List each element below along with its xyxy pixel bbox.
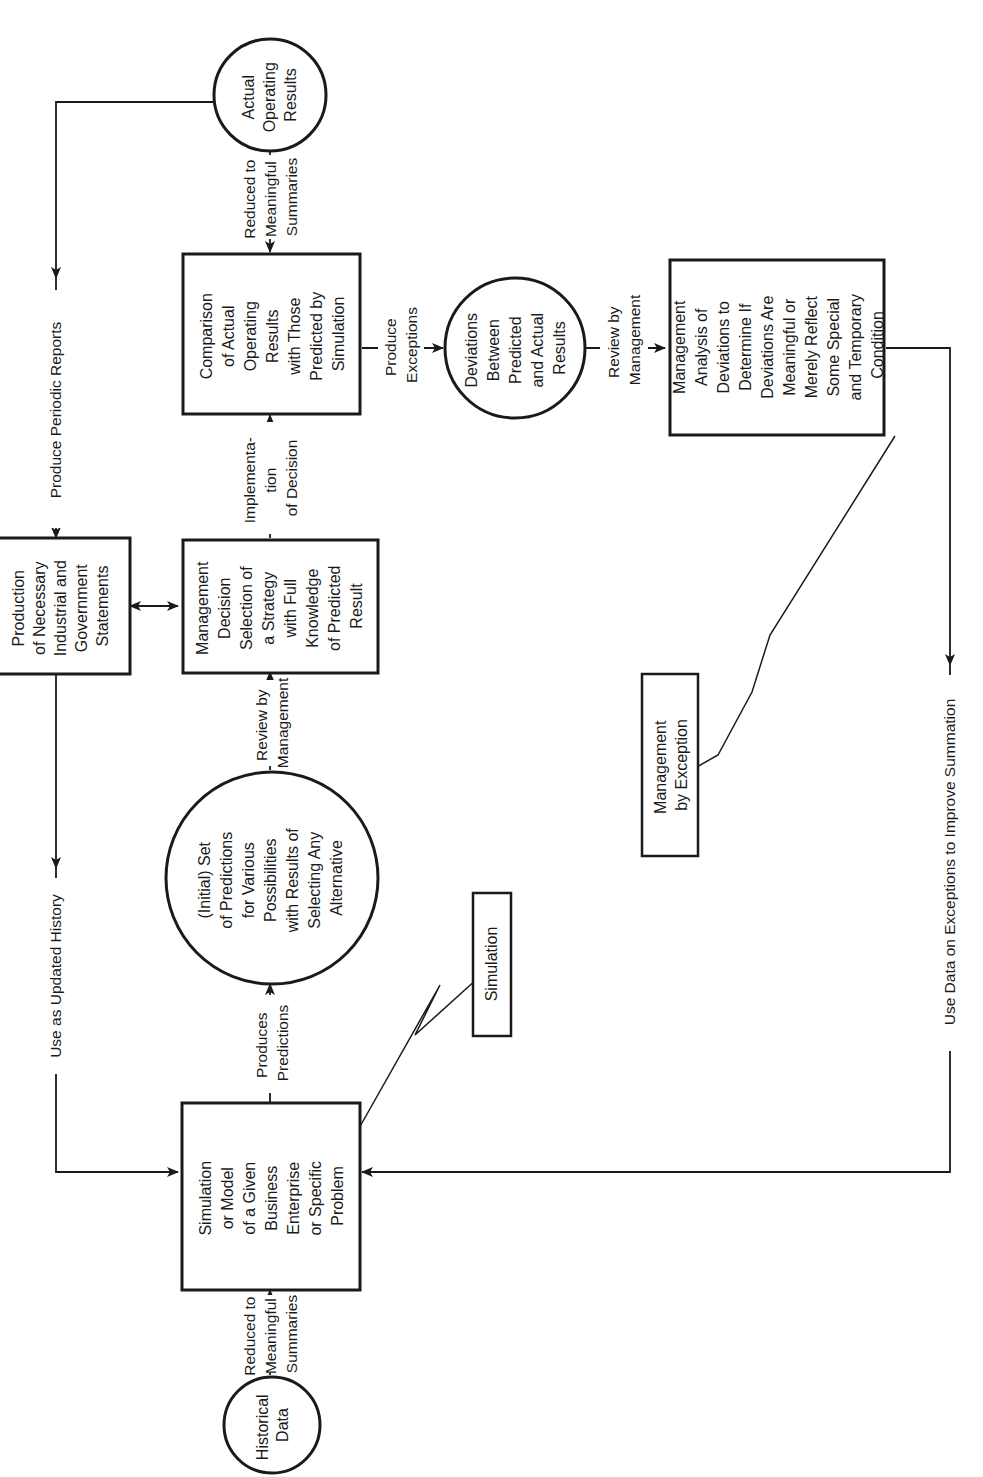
svg-text:Produce Periodic Reports: Produce Periodic Reports — [47, 321, 64, 498]
callout-management-by-exception: Management by Exception — [642, 674, 698, 856]
svg-text:Production of Necessary: Production of Necessary Industrial and G… — [10, 556, 111, 657]
svg-text:Use Data on Exceptions to Impr: Use Data on Exceptions to Improve Summat… — [941, 699, 958, 1026]
label-use-as-updated-history: Use as Updated History — [46, 878, 66, 1074]
node-comparison: Comparison of Actual Operating Results w… — [183, 254, 360, 414]
node-predictions: (Initial) Set of Predictions for Various… — [166, 772, 378, 984]
flowchart-canvas: Historical Data Simulation or Model of a… — [0, 0, 983, 1477]
svg-text:Reduced to Meaningful: Reduced to Meaningful Summaries — [241, 1292, 300, 1376]
label-pred-to-decision: Review by Management — [248, 677, 296, 768]
node-management-analysis: Management Analysis of Deviations to Det… — [670, 260, 886, 435]
label-decision-to-comparison: Implementa- tion of Decision — [238, 422, 304, 534]
svg-text:Use as Updated History: Use as Updated History — [47, 894, 64, 1058]
svg-text:(Initial) Set of Predict: (Initial) Set of Predictions for Various… — [196, 824, 345, 934]
callout-line-simulation — [358, 978, 478, 1130]
svg-text:Reduced to Meaningful: Reduced to Meaningful Summaries — [241, 155, 300, 239]
callout-line-mgmt-exception — [695, 436, 895, 768]
label-deviations-to-analysis: Review by Management — [600, 292, 648, 385]
label-use-data-on-exceptions: Use Data on Exceptions to Improve Summat… — [940, 675, 960, 1051]
node-management-decision: Management Decision Selection of a Strat… — [183, 540, 378, 673]
label-produce-periodic-reports: Produce Periodic Reports — [46, 290, 66, 528]
label-hist-to-sim: Reduced to Meaningful Summaries — [237, 1292, 305, 1376]
edge-actual-to-production — [56, 102, 215, 278]
label-comparison-to-deviations: Produce Exceptions — [378, 300, 424, 386]
svg-text:Simulation: Simulation — [483, 927, 500, 1002]
edge-production-to-sim — [56, 868, 178, 1172]
node-production-statements: Production of Necessary Industrial and G… — [0, 538, 130, 674]
callout-simulation: Simulation — [473, 893, 511, 1036]
node-deviations: Deviations Between Predicted and Actual … — [445, 278, 585, 418]
node-actual-results: Actual Operating Results — [214, 39, 326, 151]
node-historical-data: Historical Data — [224, 1377, 320, 1473]
label-actual-to-comparison: Reduced to Meaningful Summaries — [237, 155, 305, 239]
label-sim-to-pred: Produces Predictions — [247, 995, 297, 1093]
svg-text:Simulation or Model: Simulation or Model of a Given Business … — [197, 1156, 346, 1235]
node-simulation-model: Simulation or Model of a Given Business … — [182, 1103, 360, 1290]
edge-analysis-down — [886, 348, 950, 665]
